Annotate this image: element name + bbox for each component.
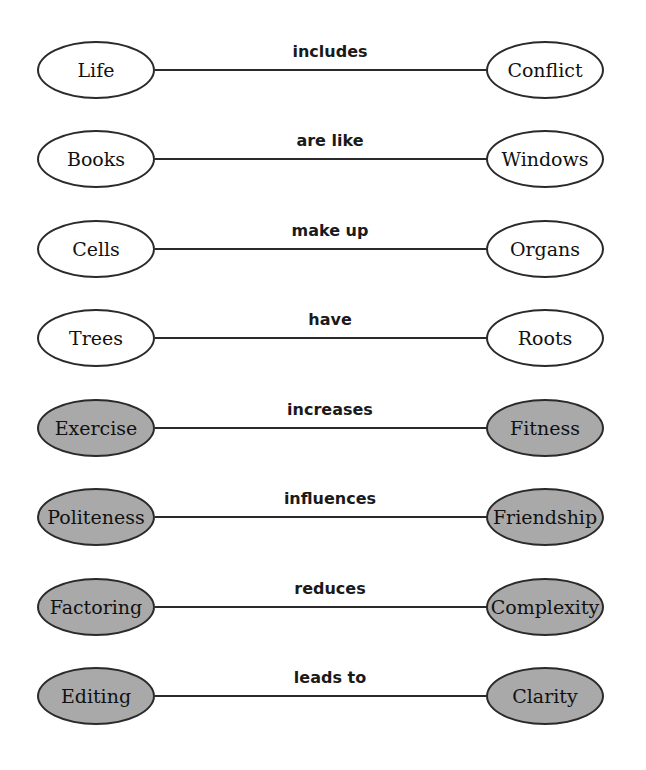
concept-pair-row: are like Books Windows <box>0 130 646 210</box>
connector-line <box>155 158 488 160</box>
concept-node-left: Exercise <box>37 399 155 457</box>
relation-label: influences <box>230 489 430 508</box>
concept-node-right: Fitness <box>486 399 604 457</box>
concept-node-right: Organs <box>486 220 604 278</box>
relation-label: increases <box>230 400 430 419</box>
concept-pair-row: increases Exercise Fitness <box>0 399 646 479</box>
connector-line <box>155 248 488 250</box>
connector-line <box>155 69 488 71</box>
relation-label: have <box>230 310 430 329</box>
relation-label: make up <box>230 221 430 240</box>
concept-node-right: Clarity <box>486 667 604 725</box>
concept-node-right: Windows <box>486 130 604 188</box>
concept-node-left: Books <box>37 130 155 188</box>
concept-node-left: Editing <box>37 667 155 725</box>
relation-label: reduces <box>230 579 430 598</box>
concept-pair-row: make up Cells Organs <box>0 220 646 300</box>
relation-label: includes <box>230 42 430 61</box>
connector-line <box>155 337 488 339</box>
concept-pair-row: includes Life Conflict <box>0 41 646 121</box>
concept-node-right: Conflict <box>486 41 604 99</box>
connector-line <box>155 606 488 608</box>
concept-node-right: Roots <box>486 309 604 367</box>
connector-line <box>155 695 488 697</box>
concept-node-left: Trees <box>37 309 155 367</box>
concept-node-left: Factoring <box>37 578 155 636</box>
concept-node-left: Politeness <box>37 488 155 546</box>
concept-pair-row: have Trees Roots <box>0 309 646 389</box>
concept-node-right: Complexity <box>486 578 604 636</box>
concept-pair-row: reduces Factoring Complexity <box>0 578 646 658</box>
relation-label: leads to <box>230 668 430 687</box>
relation-label: are like <box>230 131 430 150</box>
connector-line <box>155 516 488 518</box>
concept-pair-row: leads to Editing Clarity <box>0 667 646 747</box>
concept-node-left: Life <box>37 41 155 99</box>
concept-pair-row: influences Politeness Friendship <box>0 488 646 568</box>
connector-line <box>155 427 488 429</box>
concept-node-left: Cells <box>37 220 155 278</box>
concept-node-right: Friendship <box>486 488 604 546</box>
